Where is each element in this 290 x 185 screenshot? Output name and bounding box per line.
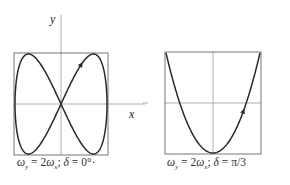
x-axis-label: x [129, 107, 134, 122]
right-figure [165, 52, 261, 154]
left-figure [14, 15, 145, 155]
left-caption: ωy = 2ωx; δ = 0°· [17, 156, 95, 171]
right-caption: ωy = 2ωx; δ = π/3 [167, 156, 246, 171]
y-axis-label: y [50, 12, 55, 27]
